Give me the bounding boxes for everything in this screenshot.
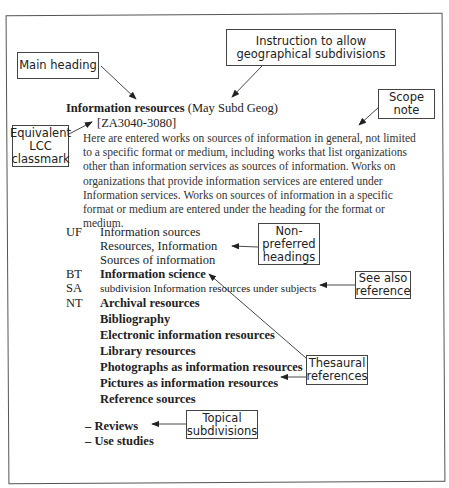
arrows-layer [0, 0, 449, 488]
arrow-non-preferred [232, 246, 258, 247]
arrow-scope [359, 107, 379, 125]
arrow-main-heading [101, 66, 136, 99]
arrow-thesaural-bt [209, 274, 306, 358]
arrow-lcc [69, 122, 92, 134]
arrow-geog [232, 66, 262, 97]
